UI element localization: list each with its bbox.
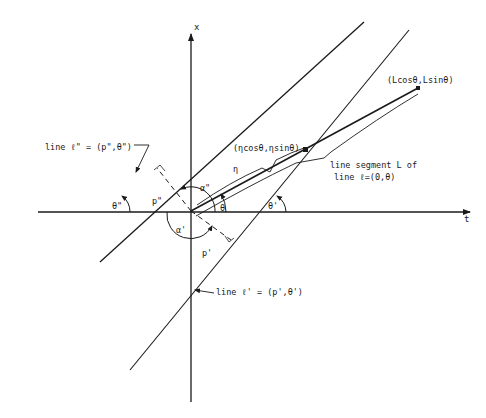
- leader-l-double-prime: [134, 145, 149, 172]
- segment-label-line2: line ℓ=(0,θ): [334, 172, 395, 182]
- alpha-double-prime-label: α": [200, 183, 210, 193]
- line-l-prime-label: line ℓ' = (p',θ'): [216, 287, 303, 297]
- theta-double-prime-label: θ": [112, 201, 122, 211]
- theta-prime-arc: [277, 196, 286, 212]
- p-double-prime-label: p": [152, 196, 162, 206]
- theta-double-prime-arc: [122, 196, 130, 212]
- hough-line-parameterization-diagram: x t line ℓ" = (p",θ") line ℓ' = (p',θ') …: [0, 0, 486, 418]
- alpha-prime-label: α': [176, 225, 186, 235]
- point-L: [416, 86, 420, 90]
- point-eta-label: (ηcosθ,ηsinθ): [233, 143, 300, 153]
- eta-label: η: [233, 164, 238, 174]
- line-l-prime: [130, 30, 409, 370]
- right-angle-mark-l-double-prime: [154, 165, 165, 171]
- t-axis-label: t: [464, 214, 469, 224]
- point-L-label: (Lcosθ,Lsinθ): [387, 75, 454, 85]
- line-l-double-prime: [100, 22, 364, 262]
- eta-brace: [197, 148, 304, 205]
- p-prime-label: p': [202, 248, 212, 258]
- leader-l-prime: [195, 290, 214, 293]
- alpha-prime-arc: [167, 212, 212, 239]
- theta-prime-label: θ': [268, 201, 278, 211]
- line-l-double-prime-label: line ℓ" = (p",θ"): [45, 142, 132, 152]
- point-eta: [303, 147, 308, 152]
- segment-label-line1: line segment L of: [330, 160, 417, 170]
- x-axis-label: x: [194, 22, 200, 32]
- theta-label: θ: [220, 203, 225, 213]
